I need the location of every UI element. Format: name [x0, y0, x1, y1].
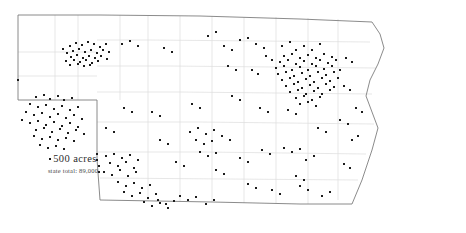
density-dot [45, 104, 47, 106]
density-dot [77, 106, 79, 108]
density-dot [69, 122, 71, 124]
density-dot [299, 103, 301, 105]
density-dot [96, 52, 98, 54]
density-dot [309, 84, 311, 86]
density-dot [33, 135, 35, 137]
density-dot [301, 87, 303, 89]
density-dot [49, 116, 51, 118]
density-dot [69, 45, 71, 47]
density-dot [303, 60, 305, 62]
density-dot [349, 89, 351, 91]
density-dot [227, 65, 229, 67]
density-dot [105, 127, 107, 129]
density-dot [29, 103, 31, 105]
density-dot [313, 81, 315, 83]
density-dot [329, 191, 331, 193]
density-dot [321, 93, 323, 95]
density-dot [61, 105, 63, 107]
density-dot [195, 196, 197, 198]
density-dot [139, 192, 141, 194]
county-boundaries-layer [18, 15, 376, 204]
density-dot [199, 151, 201, 153]
density-dot [199, 107, 201, 109]
density-dot [203, 143, 205, 145]
density-dot [37, 106, 39, 108]
density-dot [117, 181, 119, 183]
density-dot [271, 59, 273, 61]
density-dot [35, 96, 37, 98]
density-dot [297, 89, 299, 91]
density-dot [63, 148, 65, 150]
density-dot [39, 144, 41, 146]
density-dot [66, 52, 68, 54]
density-dot [207, 155, 209, 157]
density-dot [147, 197, 149, 199]
density-dot [307, 101, 309, 103]
density-dot [21, 119, 23, 121]
density-dot [331, 56, 333, 58]
density-dot [83, 133, 85, 135]
density-dot [83, 65, 85, 67]
density-dot [53, 121, 55, 123]
density-dot [61, 125, 63, 127]
density-dot [106, 58, 108, 60]
density-dot [349, 167, 351, 169]
density-dot [57, 113, 59, 115]
density-dot [361, 111, 363, 113]
density-dot [81, 44, 83, 46]
density-dot [17, 79, 19, 81]
density-dot [84, 51, 86, 53]
density-dot [151, 111, 153, 113]
density-dot [113, 153, 115, 155]
density-dot [73, 114, 75, 116]
density-dot [65, 60, 67, 62]
density-dot [303, 95, 305, 97]
density-dot [247, 37, 249, 39]
density-dot [195, 139, 197, 141]
density-dot [221, 135, 223, 137]
density-dot [343, 163, 345, 165]
density-dot [285, 71, 287, 73]
density-dot [137, 159, 139, 161]
density-dot [108, 51, 110, 53]
density-dot [105, 155, 107, 157]
density-dot [129, 154, 131, 156]
density-dot [70, 56, 72, 58]
density-dot [93, 43, 95, 45]
density-dot [96, 159, 98, 161]
density-dot [137, 45, 139, 47]
density-dot [283, 55, 285, 57]
density-dot [65, 117, 67, 119]
density-dot [189, 131, 191, 133]
density-dot [339, 69, 341, 71]
density-dot [323, 68, 325, 70]
density-dot [287, 59, 289, 61]
density-dot [155, 193, 157, 195]
density-dot [69, 109, 71, 111]
density-dot [215, 31, 217, 33]
density-dot [315, 105, 317, 107]
density-dot [79, 61, 81, 63]
density-dot [239, 157, 241, 159]
density-dot [281, 79, 283, 81]
density-dot [123, 191, 125, 193]
density-dot [255, 187, 257, 189]
density-dot [81, 118, 83, 120]
density-dot [351, 139, 353, 141]
density-dot [239, 99, 241, 101]
density-dot [231, 95, 233, 97]
density-dot [151, 205, 153, 207]
density-dot [75, 129, 77, 131]
density-dot [295, 97, 297, 99]
density-dot [88, 55, 90, 57]
density-dot [291, 53, 293, 55]
density-dot [335, 59, 337, 61]
density-dot [57, 95, 59, 97]
density-dot [90, 49, 92, 51]
density-dot [94, 57, 96, 59]
density-dot [197, 127, 199, 129]
density-dot [133, 167, 135, 169]
state-outline-path [18, 15, 384, 204]
density-dot [313, 90, 315, 92]
density-dot [59, 128, 61, 130]
